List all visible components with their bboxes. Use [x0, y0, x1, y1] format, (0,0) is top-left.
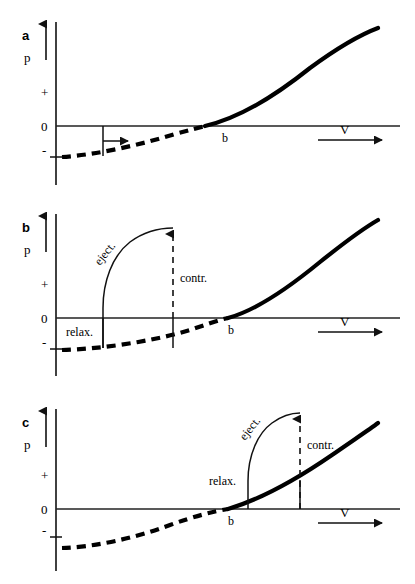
x-axis-label-b: V [340, 314, 350, 329]
label-contraction-c: contr. [307, 438, 334, 452]
panel-letter-b: b [22, 220, 30, 235]
point-label-b-c: b [228, 514, 234, 528]
panel-c-plot: c p V + 0 - b eject. contr. relax. [0, 385, 415, 584]
label-ejection-b: eject. [91, 239, 118, 268]
passive-filling-curve-dashed [62, 509, 228, 548]
label-relaxation-b: relax. [66, 325, 93, 339]
x-axis-label-c: V [340, 505, 350, 520]
active-pressure-curve-solid [205, 28, 378, 126]
y-axis-label-a: p [24, 50, 31, 65]
tick-zero-b: 0 [41, 311, 48, 326]
tick-minus-b: - [42, 335, 46, 350]
tick-zero-a: 0 [41, 119, 48, 134]
label-contraction-b: contr. [180, 271, 207, 285]
panel-c: c p V + 0 - b eject. contr. relax. [0, 385, 415, 584]
tick-minus-c: - [42, 523, 46, 538]
pressure-volume-figure: a p V + 0 - b b p V [0, 0, 415, 584]
panel-letter-a: a [22, 28, 30, 43]
tick-minus-a: - [42, 143, 46, 158]
panel-a-plot: a p V + 0 - b [0, 0, 415, 195]
tick-plus-b: + [41, 277, 48, 292]
panel-letter-c: c [22, 415, 29, 430]
point-label-b-a: b [222, 131, 228, 145]
y-axis-label-c: p [24, 437, 31, 452]
panel-b-plot: b p V + 0 - b eject. contr. relax. [0, 190, 415, 385]
tick-plus-c: + [41, 468, 48, 483]
active-pressure-curve-solid [228, 220, 378, 318]
tick-plus-a: + [41, 85, 48, 100]
label-relaxation-c: relax. [209, 474, 236, 488]
panel-a: a p V + 0 - b [0, 0, 415, 195]
point-label-b-b: b [228, 323, 234, 337]
x-axis-label-a: V [340, 122, 350, 137]
passive-filling-curve-dashed [62, 126, 205, 157]
panel-b: b p V + 0 - b eject. contr. relax. [0, 190, 415, 385]
y-axis-label-b: p [24, 242, 31, 257]
tick-zero-c: 0 [41, 502, 48, 517]
